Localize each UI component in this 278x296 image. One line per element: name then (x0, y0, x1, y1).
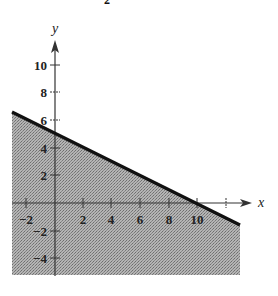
y-tick-label: 8 (41, 85, 48, 100)
figure-label-fragment: 2 (104, 0, 110, 7)
x-tick-label: 10 (191, 212, 204, 227)
y-tick-label: −4 (33, 251, 47, 266)
y-tick-label: 10 (34, 58, 47, 73)
x-tick-label: 6 (137, 212, 144, 227)
inequality-graph: 2 −2 2 4 6 8 10 x 10 8 6 (0, 0, 278, 296)
x-axis-label: x (257, 195, 265, 210)
x-tick-label: −2 (19, 212, 33, 227)
y-axis-label: y (50, 21, 59, 36)
y-tick-label: 4 (41, 141, 48, 156)
x-tick-label: 2 (80, 212, 87, 227)
y-tick-label: 2 (41, 168, 48, 183)
x-tick-label: 8 (166, 212, 173, 227)
y-tick-label: −2 (33, 224, 47, 239)
x-tick-label: 4 (108, 212, 115, 227)
